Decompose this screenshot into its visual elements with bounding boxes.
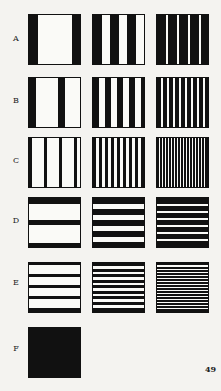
stripe — [93, 78, 99, 127]
stripe — [29, 263, 80, 265]
stripe — [168, 15, 177, 64]
stripe — [93, 291, 144, 294]
stripe — [205, 78, 209, 127]
stripe — [157, 78, 161, 127]
stripe — [93, 263, 144, 266]
grating-c1 — [28, 137, 81, 188]
stripe — [110, 15, 119, 64]
stripe — [157, 300, 208, 302]
stripe — [196, 138, 198, 187]
stripe — [74, 138, 77, 187]
stripe — [184, 138, 186, 187]
stripe — [178, 138, 180, 187]
stripe — [29, 285, 80, 288]
stripe — [179, 15, 188, 64]
grating-a1 — [28, 14, 81, 65]
grating-e2 — [92, 262, 145, 313]
stripe — [157, 279, 208, 281]
stripe — [59, 138, 62, 187]
stripe — [93, 308, 144, 313]
stripe — [93, 296, 144, 299]
stripe — [29, 138, 32, 187]
stripe — [58, 78, 65, 127]
grating-a3 — [156, 14, 209, 65]
stripe — [205, 138, 209, 187]
stripe — [169, 78, 173, 127]
stripe — [141, 78, 145, 127]
stripe — [127, 15, 136, 64]
stripe — [105, 138, 108, 187]
stripe — [93, 269, 144, 272]
stripe — [44, 138, 47, 187]
stripe — [93, 242, 144, 248]
stripe — [93, 138, 96, 187]
stripe — [157, 220, 208, 225]
grating-d1 — [28, 197, 81, 248]
stripe — [93, 15, 102, 64]
grating-c3 — [156, 137, 209, 188]
stripe — [93, 209, 144, 215]
stripe — [190, 15, 199, 64]
stripe — [29, 15, 38, 64]
stripe — [93, 280, 144, 283]
stripe — [157, 267, 208, 269]
page-number: 49 — [205, 364, 216, 374]
stripe — [181, 138, 183, 187]
row-label-a: A — [11, 34, 21, 43]
row-label-e: E — [11, 278, 21, 287]
stripe — [72, 15, 81, 64]
grating-a2 — [92, 14, 145, 65]
stripe — [157, 285, 208, 287]
stripe — [157, 297, 208, 299]
stripe — [157, 294, 208, 296]
grating-d2 — [92, 197, 145, 248]
stripe — [157, 263, 208, 265]
stripe — [157, 303, 208, 305]
stripe — [93, 285, 144, 288]
row-label-f: F — [11, 344, 21, 353]
stripe — [157, 288, 208, 290]
stripe — [193, 78, 197, 127]
stripe — [129, 138, 132, 187]
stripe — [93, 302, 144, 305]
stripe — [29, 78, 36, 127]
stripe — [93, 274, 144, 277]
stripe — [199, 78, 203, 127]
stripe — [169, 138, 171, 187]
stripe — [29, 243, 80, 248]
stripe — [29, 198, 80, 204]
stripe — [157, 291, 208, 293]
stripe — [157, 234, 208, 239]
grating-e1 — [28, 262, 81, 313]
stripe — [157, 198, 208, 204]
stripe — [190, 138, 192, 187]
stripe — [157, 282, 208, 284]
grating-d3 — [156, 197, 209, 248]
stripe — [157, 138, 159, 187]
stripe — [29, 308, 80, 313]
stripe — [157, 273, 208, 275]
stripe — [199, 138, 201, 187]
stripe — [157, 241, 208, 248]
stripe — [166, 138, 168, 187]
grating-b2 — [92, 77, 145, 128]
stripe — [105, 78, 111, 127]
stripe — [117, 138, 120, 187]
stripe — [29, 220, 80, 225]
stripe — [187, 78, 191, 127]
stripe — [187, 138, 189, 187]
stripe — [157, 227, 208, 232]
stripe — [175, 78, 179, 127]
stripe — [93, 231, 144, 237]
stripe — [29, 274, 80, 277]
grating-b3 — [156, 77, 209, 128]
stripe — [93, 198, 144, 204]
row-label-c: C — [11, 156, 21, 165]
stripe — [129, 78, 135, 127]
stripe — [157, 15, 166, 64]
stripe — [157, 213, 208, 218]
stripe — [202, 138, 204, 187]
grating-b1 — [28, 77, 81, 128]
stripe — [157, 309, 208, 313]
stripe — [117, 78, 123, 127]
